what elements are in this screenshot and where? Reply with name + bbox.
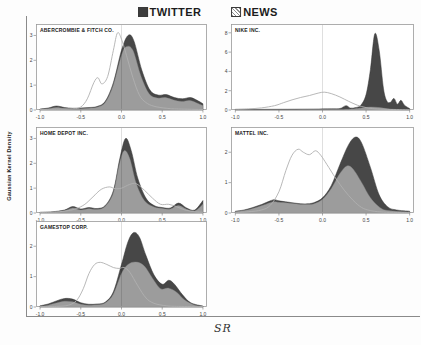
svg-text:1: 1	[225, 179, 228, 185]
svg-text:0.0: 0.0	[118, 114, 125, 120]
svg-text:0: 0	[30, 210, 33, 216]
svg-text:2: 2	[225, 88, 228, 94]
svg-text:2: 2	[30, 160, 33, 166]
svg-text:0.5: 0.5	[159, 311, 166, 317]
svg-text:1: 1	[30, 273, 33, 279]
twitter-swatch-icon	[138, 7, 148, 17]
svg-text:0.0: 0.0	[319, 114, 326, 120]
subplot-title-mattel: MATTEL INC.	[235, 130, 268, 136]
svg-text:1.0: 1.0	[199, 311, 206, 317]
y-axis-label: Gaussian Kernel Density	[6, 126, 12, 206]
svg-text:1: 1	[30, 185, 33, 191]
legend-label-news: NEWS	[243, 6, 278, 18]
news-swatch-icon	[231, 7, 241, 17]
svg-text:0: 0	[30, 107, 33, 113]
svg-text:-0.5: -0.5	[76, 311, 85, 317]
density-chart-svg: -1.0-0.50.00.51.002468	[223, 24, 415, 121]
subplot-title-abercrombie-fitch: ABERCROMBIE & FITCH CO.	[40, 27, 114, 33]
subplot-home-depot: -1.0-0.50.00.51.00123 HOME DEPOT INC.	[28, 127, 208, 224]
svg-text:2: 2	[225, 149, 228, 155]
x-axis-ticks: -1.0-0.50.00.51.0	[36, 307, 207, 317]
density-chart-svg: -1.0-0.50.00.51.0012	[223, 127, 415, 224]
svg-text:-0.5: -0.5	[275, 217, 284, 223]
svg-text:6: 6	[225, 49, 228, 55]
density-chart-svg: -1.0-0.50.00.51.0012	[28, 221, 208, 318]
svg-text:3: 3	[30, 135, 33, 141]
svg-text:-1.0: -1.0	[36, 311, 45, 317]
svg-text:1.0: 1.0	[406, 114, 413, 120]
svg-text:1.0: 1.0	[406, 217, 413, 223]
density-chart-svg: -1.0-0.50.00.51.00123	[28, 24, 208, 121]
svg-text:4: 4	[225, 68, 228, 74]
subplot-nike: -1.0-0.50.00.51.002468 NIKE INC.	[223, 24, 415, 121]
x-axis-ticks: -1.0-0.50.00.51.0	[231, 110, 413, 120]
svg-text:1: 1	[30, 82, 33, 88]
svg-text:8: 8	[225, 30, 228, 36]
svg-text:1.0: 1.0	[199, 114, 206, 120]
chart-legend: TWITTER NEWS	[138, 6, 278, 18]
subplot-mattel: -1.0-0.50.00.51.0012 MATTEL INC.	[223, 127, 415, 224]
svg-text:-0.5: -0.5	[76, 114, 85, 120]
svg-text:-1.0: -1.0	[231, 114, 240, 120]
svg-text:0.5: 0.5	[363, 114, 370, 120]
subplot-abercrombie-fitch: -1.0-0.50.00.51.00123 ABERCROMBIE & FITC…	[28, 24, 208, 121]
outer-y-axis-line	[26, 16, 27, 316]
x-axis-ticks: -1.0-0.50.00.51.0	[231, 213, 413, 223]
svg-text:-1.0: -1.0	[36, 114, 45, 120]
subplot-title-home-depot: HOME DEPOT INC.	[40, 130, 88, 136]
svg-text:0: 0	[30, 304, 33, 310]
subplot-title-nike: NIKE INC.	[235, 27, 260, 33]
x-axis-ticks: -1.0-0.50.00.51.0	[36, 110, 207, 120]
legend-item-twitter: TWITTER	[138, 6, 202, 18]
svg-text:0.0: 0.0	[118, 311, 125, 317]
density-chart-svg: -1.0-0.50.00.51.00123	[28, 127, 208, 224]
svg-text:2: 2	[30, 57, 33, 63]
svg-text:0.5: 0.5	[363, 217, 370, 223]
figure-kernel-density-panel: TWITTER NEWS Gaussian Kernel Density SR …	[0, 0, 421, 345]
svg-text:0.5: 0.5	[159, 114, 166, 120]
subplot-title-gamestop: GAMESTOP CORP.	[40, 224, 88, 230]
y-axis-ticks: 0123	[30, 135, 36, 216]
y-axis-ticks: 012	[225, 149, 231, 216]
y-axis-ticks: 02468	[225, 30, 231, 113]
y-axis-ticks: 012	[30, 243, 36, 310]
svg-text:-0.5: -0.5	[275, 114, 284, 120]
svg-text:2: 2	[30, 243, 33, 249]
svg-text:0: 0	[225, 210, 228, 216]
subplot-gamestop: -1.0-0.50.00.51.0012 GAMESTOP CORP.	[28, 221, 208, 318]
x-axis-label: SR	[26, 322, 420, 335]
legend-item-news: NEWS	[231, 6, 278, 18]
legend-label-twitter: TWITTER	[150, 6, 202, 18]
y-axis-ticks: 0123	[30, 32, 36, 113]
svg-text:-1.0: -1.0	[231, 217, 240, 223]
svg-text:0: 0	[225, 107, 228, 113]
svg-text:0.0: 0.0	[319, 217, 326, 223]
svg-text:3: 3	[30, 32, 33, 38]
